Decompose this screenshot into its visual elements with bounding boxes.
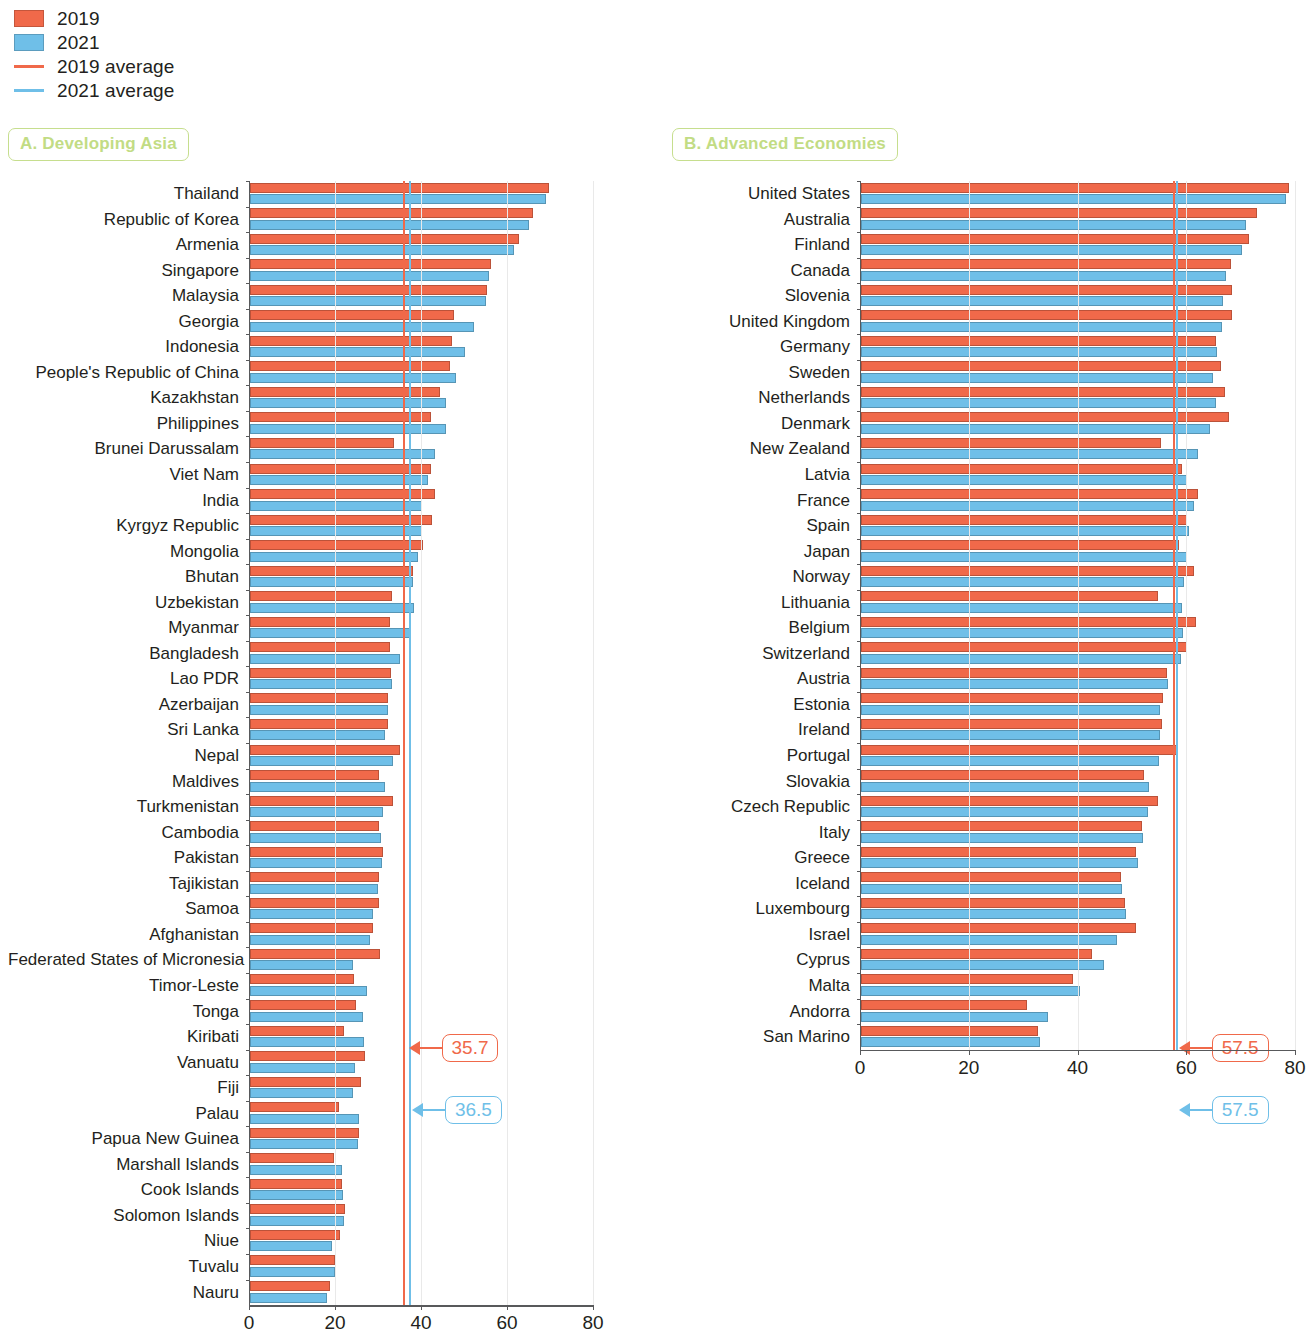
bar-group (860, 181, 1272, 207)
bar-group (249, 334, 618, 360)
bar-2019 (250, 1102, 339, 1112)
chart-row: Bhutan (8, 564, 618, 590)
category-label: Austria (672, 666, 860, 692)
bar-group (860, 845, 1272, 871)
chart-row: Canada (672, 258, 1272, 284)
bar-2019 (861, 183, 1289, 193)
chart-row: Ireland (672, 717, 1272, 743)
panel-a-x-axis: 020406080 (249, 1305, 593, 1333)
bar-group (249, 769, 618, 795)
bar-2019 (250, 923, 373, 933)
category-label: Viet Nam (8, 462, 249, 488)
panel-b-title: B. Advanced Economies (672, 128, 898, 161)
bar-group (249, 590, 618, 616)
category-label: Cambodia (8, 820, 249, 846)
bar-2021 (250, 424, 446, 434)
bar-group (860, 743, 1272, 769)
category-label: Sweden (672, 360, 860, 386)
chart-row: Israel (672, 922, 1272, 948)
category-label: Vanuatu (8, 1050, 249, 1076)
bar-2021 (250, 322, 474, 332)
chart-row: Vanuatu (8, 1050, 618, 1076)
bar-2021 (861, 245, 1242, 255)
panel-advanced-economies: B. Advanced Economies United StatesAustr… (672, 128, 1272, 1090)
bar-group (249, 820, 618, 846)
bar-2019 (861, 796, 1158, 806)
bar-2019 (250, 1051, 365, 1061)
chart-row: Pakistan (8, 845, 618, 871)
chart-row: Fiji (8, 1075, 618, 1101)
bar-2021 (861, 501, 1194, 511)
bar-2021 (250, 679, 392, 689)
bar-2021 (861, 577, 1184, 587)
bar-2021 (250, 194, 546, 204)
category-label: Kyrgyz Republic (8, 513, 249, 539)
chart-row: Iceland (672, 871, 1272, 897)
bar-group (249, 283, 618, 309)
category-label: Malaysia (8, 283, 249, 309)
average-value-label: 36.5 (445, 1096, 502, 1125)
category-label: Germany (672, 334, 860, 360)
bar-group (249, 922, 618, 948)
category-label: Singapore (8, 258, 249, 284)
bar-group (860, 360, 1272, 386)
category-label: Greece (672, 845, 860, 871)
bar-2019 (861, 1000, 1027, 1010)
bar-2021 (250, 398, 446, 408)
bar-2019 (861, 591, 1158, 601)
bar-2021 (250, 960, 353, 970)
chart-row: France (672, 488, 1272, 514)
legend-item: 2021 (14, 30, 334, 54)
bar-2021 (861, 1037, 1040, 1047)
legend-label: 2021 (57, 33, 100, 52)
bar-2019 (250, 1000, 356, 1010)
category-label: Mongolia (8, 539, 249, 565)
bar-2019 (861, 336, 1216, 346)
x-axis-tick (507, 1305, 508, 1310)
bar-2019 (250, 387, 440, 397)
chart-row: Afghanistan (8, 922, 618, 948)
category-label: Papua New Guinea (8, 1126, 249, 1152)
bar-2021 (861, 552, 1187, 562)
chart-row: Myanmar (8, 615, 618, 641)
chart-row: Thailand (8, 181, 618, 207)
bar-2021 (861, 526, 1189, 536)
panel-developing-asia: A. Developing Asia ThailandRepublic of K… (8, 128, 618, 1333)
bar-2019 (861, 949, 1092, 959)
bar-2019 (250, 1077, 361, 1087)
bar-2021 (861, 449, 1198, 459)
bar-2019 (250, 361, 450, 371)
bar-2019 (861, 464, 1182, 474)
chart-row: Kazakhstan (8, 385, 618, 411)
bar-2019 (250, 540, 423, 550)
bar-2021 (861, 628, 1183, 638)
bar-group (860, 641, 1272, 667)
chart-row: Singapore (8, 258, 618, 284)
bar-2021 (250, 449, 435, 459)
bar-2021 (861, 756, 1159, 766)
category-label: Turkmenistan (8, 794, 249, 820)
bar-2021 (861, 475, 1187, 485)
bar-2021 (861, 935, 1117, 945)
bar-group (860, 769, 1272, 795)
bar-2019 (250, 821, 379, 831)
bar-2021 (861, 271, 1226, 281)
bar-group (860, 590, 1272, 616)
bar-2019 (250, 770, 379, 780)
bar-2019 (861, 361, 1221, 371)
bar-group (860, 488, 1272, 514)
legend-line-icon (14, 82, 44, 99)
chart-row: New Zealand (672, 436, 1272, 462)
chart-row: Slovenia (672, 283, 1272, 309)
category-label: Portugal (672, 743, 860, 769)
bar-group (860, 794, 1272, 820)
bar-2021 (250, 935, 370, 945)
bar-2021 (250, 347, 465, 357)
bar-group (249, 462, 618, 488)
x-axis-tick (1295, 1050, 1296, 1055)
legend-line-icon (14, 58, 44, 75)
bar-2021 (861, 347, 1217, 357)
bar-group (249, 871, 618, 897)
bar-group (860, 258, 1272, 284)
bar-2021 (861, 679, 1168, 689)
